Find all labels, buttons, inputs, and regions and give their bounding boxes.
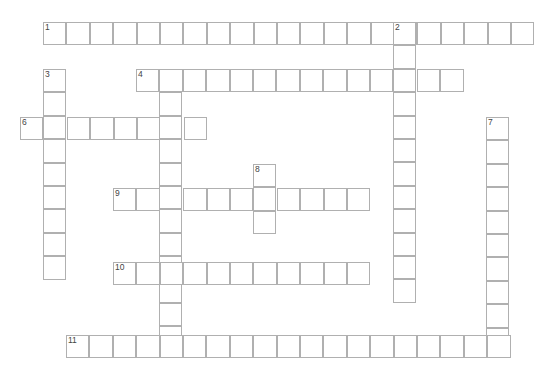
crossword-cell[interactable] [324, 262, 347, 285]
crossword-cell[interactable] [371, 22, 394, 45]
crossword-cell[interactable] [159, 186, 182, 209]
crossword-cell[interactable] [393, 45, 416, 68]
crossword-cell[interactable] [136, 262, 159, 285]
crossword-cell[interactable] [183, 335, 206, 358]
crossword-cell[interactable] [347, 69, 370, 92]
crossword-cell[interactable] [160, 22, 183, 45]
crossword-cell[interactable]: 9 [113, 188, 136, 211]
crossword-cell[interactable] [417, 69, 440, 92]
crossword-cell[interactable] [207, 262, 230, 285]
crossword-cell[interactable] [230, 69, 253, 92]
crossword-cell[interactable] [43, 116, 66, 139]
crossword-cell[interactable] [393, 209, 416, 232]
crossword-cell[interactable] [43, 233, 66, 256]
crossword-cell[interactable] [486, 140, 509, 163]
crossword-cell[interactable] [464, 22, 487, 45]
crossword-cell[interactable] [393, 233, 416, 256]
crossword-cell[interactable] [323, 69, 346, 92]
crossword-cell[interactable] [300, 335, 323, 358]
crossword-cell[interactable] [393, 92, 416, 115]
crossword-cell[interactable] [113, 22, 136, 45]
crossword-cell[interactable] [207, 22, 230, 45]
crossword-cell[interactable] [417, 335, 440, 358]
crossword-cell[interactable] [324, 22, 347, 45]
crossword-cell[interactable]: 4 [136, 69, 159, 92]
crossword-cell[interactable] [394, 335, 417, 358]
crossword-cell[interactable] [160, 262, 183, 285]
crossword-cell[interactable] [183, 188, 206, 211]
crossword-cell[interactable] [183, 69, 206, 92]
crossword-cell[interactable]: 6 [20, 117, 43, 140]
crossword-cell[interactable] [486, 164, 509, 187]
crossword-cell[interactable]: 10 [113, 262, 136, 285]
crossword-cell[interactable] [254, 22, 277, 45]
crossword-cell[interactable] [43, 186, 66, 209]
crossword-cell[interactable] [441, 22, 464, 45]
crossword-cell[interactable] [300, 188, 323, 211]
crossword-cell[interactable] [206, 69, 229, 92]
crossword-cell[interactable] [159, 116, 182, 139]
crossword-cell[interactable] [300, 262, 323, 285]
crossword-cell[interactable] [43, 163, 66, 186]
crossword-cell[interactable] [300, 69, 323, 92]
crossword-cell[interactable] [440, 335, 463, 358]
crossword-cell[interactable] [370, 335, 393, 358]
crossword-cell[interactable] [43, 92, 66, 115]
crossword-cell[interactable] [253, 262, 276, 285]
crossword-cell[interactable] [206, 335, 229, 358]
crossword-cell[interactable] [230, 262, 253, 285]
crossword-cell[interactable] [43, 139, 66, 162]
crossword-cell[interactable] [136, 335, 159, 358]
crossword-cell[interactable] [136, 188, 159, 211]
crossword-cell[interactable] [207, 188, 230, 211]
crossword-cell[interactable] [253, 335, 276, 358]
crossword-cell[interactable] [277, 188, 300, 211]
crossword-cell[interactable] [486, 234, 509, 257]
crossword-cell[interactable] [486, 211, 509, 234]
crossword-cell[interactable] [159, 69, 182, 92]
crossword-cell[interactable] [230, 335, 253, 358]
crossword-cell[interactable]: 3 [43, 69, 66, 92]
crossword-cell[interactable] [347, 188, 370, 211]
crossword-cell[interactable] [487, 335, 510, 358]
crossword-cell[interactable] [277, 262, 300, 285]
crossword-cell[interactable] [417, 22, 440, 45]
crossword-cell[interactable] [323, 335, 346, 358]
crossword-cell[interactable] [253, 211, 276, 234]
crossword-cell[interactable]: 11 [66, 335, 89, 358]
crossword-cell[interactable] [90, 22, 113, 45]
crossword-cell[interactable] [253, 69, 276, 92]
crossword-cell[interactable] [486, 281, 509, 304]
crossword-cell[interactable] [440, 69, 463, 92]
crossword-cell[interactable] [43, 209, 66, 232]
crossword-cell[interactable] [464, 335, 487, 358]
crossword-cell[interactable] [347, 262, 370, 285]
crossword-cell[interactable]: 1 [43, 22, 66, 45]
crossword-cell[interactable] [347, 335, 370, 358]
crossword-cell[interactable] [66, 22, 89, 45]
crossword-cell[interactable]: 7 [486, 117, 509, 140]
crossword-cell[interactable] [159, 303, 182, 326]
crossword-cell[interactable] [90, 117, 113, 140]
crossword-cell[interactable] [159, 209, 182, 232]
crossword-cell[interactable]: 2 [393, 22, 416, 45]
crossword-cell[interactable] [486, 304, 509, 327]
crossword-cell[interactable] [486, 257, 509, 280]
crossword-cell[interactable] [159, 163, 182, 186]
crossword-cell[interactable] [393, 139, 416, 162]
crossword-cell[interactable] [183, 22, 206, 45]
crossword-cell[interactable] [393, 162, 416, 185]
crossword-cell[interactable] [276, 69, 299, 92]
crossword-cell[interactable] [393, 116, 416, 139]
crossword-cell[interactable] [160, 335, 183, 358]
crossword-cell[interactable] [488, 22, 511, 45]
crossword-cell[interactable] [324, 188, 347, 211]
crossword-cell[interactable] [114, 117, 137, 140]
crossword-cell[interactable] [113, 335, 136, 358]
crossword-cell[interactable] [486, 187, 509, 210]
crossword-cell[interactable] [184, 117, 207, 140]
crossword-cell[interactable] [300, 22, 323, 45]
crossword-cell[interactable] [393, 279, 416, 302]
crossword-cell[interactable] [277, 22, 300, 45]
crossword-cell[interactable] [159, 233, 182, 256]
